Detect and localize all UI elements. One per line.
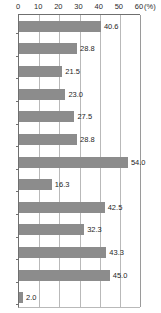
bar (19, 292, 23, 303)
bar (19, 202, 105, 213)
bar-value-label: 40.6 (104, 23, 119, 31)
x-axis-tick-label: 40 (94, 3, 102, 11)
bar-value-label: 27.5 (77, 113, 92, 121)
bar-row: 27.5 (19, 111, 140, 122)
bar (19, 43, 77, 54)
x-axis-tick-label: 10 (34, 3, 42, 11)
bar-value-label: 23.0 (68, 91, 83, 99)
bar (19, 224, 84, 235)
bar (19, 270, 110, 281)
bar-value-label: 28.8 (80, 136, 95, 144)
x-axis-unit-label: (%) (144, 3, 156, 11)
bar (19, 111, 74, 122)
x-axis-tick-labels: 0102030405060(%) (0, 0, 161, 15)
bar-row: 28.8 (19, 134, 140, 145)
bar-value-label: 2.0 (26, 294, 36, 302)
bar-value-label: 16.3 (55, 181, 70, 189)
bar-row: 28.8 (19, 43, 140, 54)
bar-row: 54.0 (19, 157, 140, 168)
x-axis-tick-label: 30 (74, 3, 82, 11)
bar-row: 2.0 (19, 292, 140, 303)
bar-value-label: 32.3 (87, 226, 102, 234)
bar-row: 23.0 (19, 89, 140, 100)
bar-row: 43.3 (19, 247, 140, 258)
bar (19, 89, 65, 100)
x-axis-tick-label: 50 (115, 3, 123, 11)
bar-row: 40.6 (19, 21, 140, 32)
x-axis-tick-label: 60 (135, 3, 143, 11)
bar (19, 134, 77, 145)
bar-row: 21.5 (19, 66, 140, 77)
bar (19, 157, 128, 168)
bar-value-label: 42.5 (108, 204, 123, 212)
bar (19, 179, 52, 190)
bar (19, 66, 62, 77)
bar-series: 40.628.821.523.027.528.854.016.342.532.3… (19, 15, 140, 307)
bar-row: 32.3 (19, 224, 140, 235)
bar (19, 247, 106, 258)
plot-area: 40.628.821.523.027.528.854.016.342.532.3… (18, 14, 140, 308)
bar-value-label: 43.3 (109, 249, 124, 257)
bar-row: 45.0 (19, 270, 140, 281)
x-axis-tick-label: 20 (54, 3, 62, 11)
bar-row: 42.5 (19, 202, 140, 213)
bar (19, 21, 101, 32)
x-axis-tick-label: 0 (16, 3, 20, 11)
bar-chart: 0102030405060(%) 40.628.821.523.027.528.… (0, 0, 161, 313)
bar-value-label: 54.0 (131, 159, 146, 167)
bar-value-label: 28.8 (80, 45, 95, 53)
bar-value-label: 21.5 (65, 68, 80, 76)
bar-value-label: 45.0 (113, 272, 128, 280)
bar-row: 16.3 (19, 179, 140, 190)
